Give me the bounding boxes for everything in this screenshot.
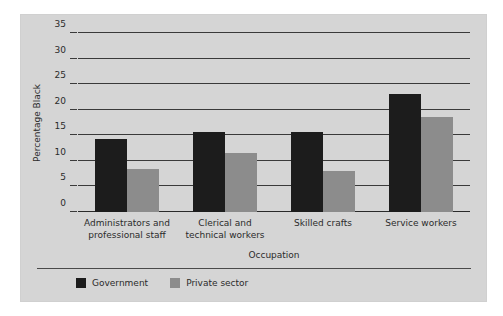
x-axis-category-label: Administrators and professional staff bbox=[78, 217, 176, 241]
bar bbox=[421, 117, 453, 212]
y-axis-tick-label: 10 bbox=[55, 147, 66, 156]
bar-group bbox=[78, 33, 176, 212]
bar bbox=[225, 153, 257, 212]
y-axis-tick-label: 35 bbox=[55, 20, 66, 29]
y-axis-tick-label: 30 bbox=[55, 45, 66, 54]
y-axis-tick-label: 5 bbox=[60, 173, 66, 182]
y-axis-tick-mark bbox=[70, 160, 77, 161]
y-axis-title-text: Percentage Black bbox=[32, 84, 42, 162]
y-axis-tick-mark bbox=[70, 185, 77, 186]
legend-label: Private sector bbox=[186, 278, 248, 288]
x-axis-title-text: Occupation bbox=[248, 250, 299, 260]
bar bbox=[389, 94, 421, 212]
y-axis-tick-mark bbox=[70, 32, 77, 33]
y-axis-tick-mark bbox=[70, 134, 77, 135]
x-axis-category-labels: Administrators and professional staffCle… bbox=[78, 217, 470, 241]
legend-separator bbox=[37, 268, 471, 269]
y-axis-title: Percentage Black bbox=[30, 33, 44, 212]
bar bbox=[193, 132, 225, 212]
bar-group bbox=[372, 33, 470, 212]
legend-item: Government bbox=[76, 278, 148, 288]
y-axis-tick-label: 25 bbox=[55, 71, 66, 80]
y-axis-tick-mark bbox=[70, 58, 77, 59]
y-axis-tick-label: 15 bbox=[55, 122, 66, 131]
legend-label: Government bbox=[92, 278, 148, 288]
plot-area: 05101520253035 bbox=[78, 33, 470, 212]
x-axis-category-label: Clerical and technical workers bbox=[176, 217, 274, 241]
bar-group bbox=[176, 33, 274, 212]
bar bbox=[323, 171, 355, 212]
x-axis-category-label: Skilled crafts bbox=[274, 217, 372, 241]
y-axis-tick-mark bbox=[70, 109, 77, 110]
legend-swatch bbox=[76, 278, 86, 288]
chart-legend: GovernmentPrivate sector bbox=[76, 278, 248, 288]
x-axis-category-label: Service workers bbox=[372, 217, 470, 241]
y-axis-tick-mark bbox=[70, 211, 77, 212]
legend-swatch bbox=[170, 278, 180, 288]
y-axis-tick-mark bbox=[70, 83, 77, 84]
bar bbox=[291, 132, 323, 212]
x-axis-title: Occupation bbox=[78, 250, 470, 260]
chart-figure: Percentage Black 05101520253035 Administ… bbox=[20, 14, 487, 302]
y-axis-tick-label: 20 bbox=[55, 96, 66, 105]
bar-group bbox=[274, 33, 372, 212]
bar bbox=[127, 169, 159, 212]
legend-item: Private sector bbox=[170, 278, 248, 288]
bar bbox=[95, 139, 127, 212]
bar-groups bbox=[78, 33, 470, 212]
y-axis-tick-label: 0 bbox=[60, 199, 66, 208]
